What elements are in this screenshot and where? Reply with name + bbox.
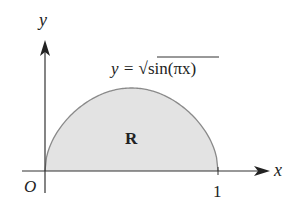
x-tick-label-1: 1 bbox=[213, 182, 222, 201]
curve-equation: y = √sin(πx) bbox=[109, 57, 219, 78]
x-axis-label: x bbox=[273, 160, 282, 180]
diagram-canvas: y x O 1 R y = √sin(πx) bbox=[0, 0, 297, 222]
region-label: R bbox=[125, 129, 138, 148]
origin-label: O bbox=[24, 177, 36, 196]
svg-text:y = √sin(πx): y = √sin(πx) bbox=[109, 59, 196, 78]
equation-func: sin bbox=[148, 59, 168, 78]
equation-lhs: y = bbox=[109, 59, 139, 78]
equation-arg: (πx) bbox=[168, 59, 196, 78]
y-axis-label: y bbox=[37, 10, 47, 30]
